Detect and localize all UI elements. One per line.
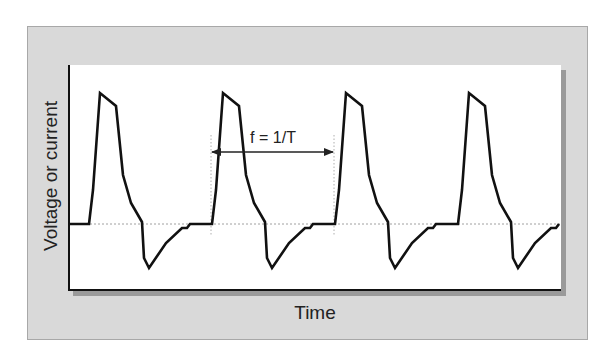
y-axis-label: Voltage or current [40, 101, 62, 251]
frequency-annotation: f = 1/T [250, 129, 296, 147]
x-axis-label: Time [294, 302, 336, 324]
waveform-line [69, 93, 559, 268]
